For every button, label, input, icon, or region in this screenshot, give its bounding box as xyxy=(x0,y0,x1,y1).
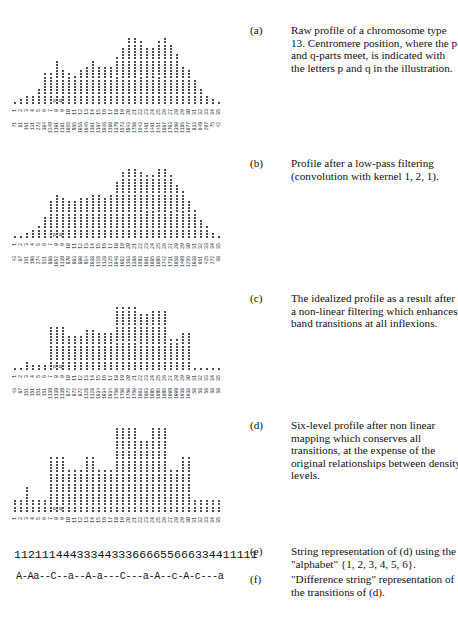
dot xyxy=(62,210,64,212)
dot xyxy=(176,201,178,203)
dot xyxy=(140,175,142,177)
dot xyxy=(146,330,148,332)
dot xyxy=(164,487,166,489)
dot xyxy=(74,365,76,367)
dot xyxy=(110,339,112,341)
dot xyxy=(62,233,64,235)
dot xyxy=(200,92,202,94)
dot xyxy=(140,210,142,212)
dot xyxy=(80,497,82,499)
dot xyxy=(104,207,106,209)
dot xyxy=(62,346,64,348)
dot xyxy=(200,102,202,104)
dot xyxy=(50,484,52,486)
dot xyxy=(140,320,142,322)
dot xyxy=(50,201,52,203)
dot xyxy=(74,342,76,344)
dot xyxy=(152,48,154,50)
dot xyxy=(164,230,166,232)
dot xyxy=(92,217,94,219)
dot xyxy=(74,76,76,78)
dot xyxy=(146,102,148,104)
dot xyxy=(194,80,196,82)
dot xyxy=(116,441,118,443)
dot xyxy=(68,494,70,496)
dot xyxy=(122,80,124,82)
dot xyxy=(146,233,148,235)
dot xyxy=(146,349,148,351)
dot xyxy=(62,96,64,98)
dot xyxy=(146,204,148,206)
dot xyxy=(188,73,190,75)
dot xyxy=(62,214,64,216)
dot xyxy=(92,484,94,486)
dot xyxy=(110,226,112,228)
dot xyxy=(122,368,124,370)
dot xyxy=(86,210,88,212)
dot xyxy=(50,349,52,351)
dot xyxy=(26,99,28,101)
dot xyxy=(110,494,112,496)
dot xyxy=(50,457,52,459)
dot xyxy=(92,507,94,509)
dot xyxy=(194,233,196,235)
dot xyxy=(152,211,154,213)
dot xyxy=(152,349,154,351)
dot xyxy=(170,507,172,509)
dot xyxy=(158,470,160,472)
dot xyxy=(62,333,64,335)
dot xyxy=(50,365,52,367)
dot xyxy=(122,349,124,351)
dot xyxy=(164,503,166,505)
dot xyxy=(110,346,112,348)
dot xyxy=(158,327,160,329)
dot xyxy=(116,311,118,313)
dot xyxy=(74,89,76,91)
dot xyxy=(128,464,130,466)
dot xyxy=(92,92,94,94)
dot xyxy=(104,494,106,496)
dot xyxy=(56,226,58,228)
caption-label: (e) xyxy=(250,545,262,558)
dot xyxy=(80,233,82,235)
dot xyxy=(50,503,52,505)
dot xyxy=(62,477,64,479)
dot xyxy=(32,96,34,98)
dot xyxy=(164,510,166,512)
dot xyxy=(50,358,52,360)
dot xyxy=(98,89,100,91)
dot xyxy=(164,214,166,216)
dot xyxy=(176,54,178,56)
dot xyxy=(176,92,178,94)
dot xyxy=(188,201,190,203)
dot xyxy=(140,470,142,472)
dot xyxy=(80,368,82,370)
dot xyxy=(128,480,130,482)
dot xyxy=(188,92,190,94)
dot xyxy=(50,352,52,354)
dot xyxy=(122,447,124,449)
dot xyxy=(68,99,70,101)
dot xyxy=(98,339,100,341)
dot xyxy=(86,330,88,332)
dot xyxy=(164,336,166,338)
dot xyxy=(170,182,172,184)
dot xyxy=(62,368,64,370)
dot xyxy=(122,89,124,91)
dot xyxy=(176,73,178,75)
dot xyxy=(86,198,88,200)
dot xyxy=(116,484,118,486)
dot xyxy=(134,477,136,479)
dot xyxy=(32,365,34,367)
dot xyxy=(116,182,118,184)
dot xyxy=(50,464,52,466)
dot xyxy=(134,330,136,332)
dot xyxy=(158,92,160,94)
dot xyxy=(116,83,118,85)
dot xyxy=(188,474,190,476)
dot xyxy=(50,470,52,472)
dot xyxy=(56,477,58,479)
dot xyxy=(158,207,160,209)
dot xyxy=(68,336,70,338)
dot xyxy=(68,223,70,225)
